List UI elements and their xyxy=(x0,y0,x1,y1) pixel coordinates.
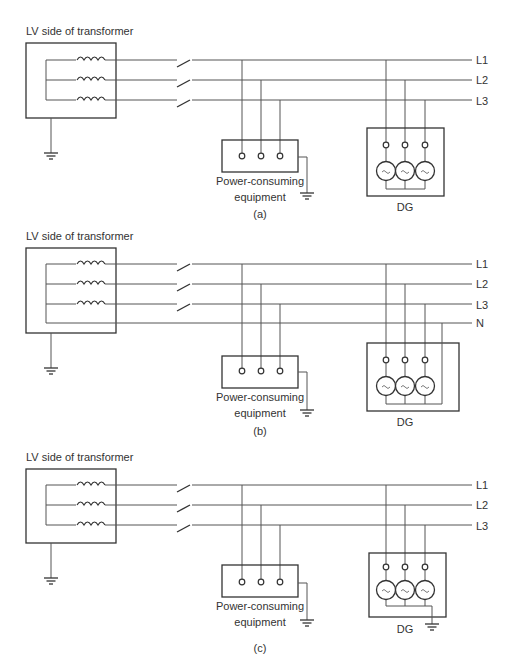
load-label-line1: Power-consuming xyxy=(216,391,304,403)
panel-b: LV side of transformer L1 L2 L3 N P xyxy=(26,230,488,437)
terminal-icon xyxy=(383,357,389,363)
panel-caption: (c) xyxy=(254,642,267,654)
switch-icon xyxy=(177,505,190,512)
terminal-icon xyxy=(258,579,264,585)
ac-generator-icon xyxy=(396,162,415,181)
line-label-l2: L2 xyxy=(476,74,488,86)
line-label-l1: L1 xyxy=(476,54,488,66)
grounding-systems-diagram: LV side of transformer L1 L2 L3 xyxy=(0,0,505,667)
transformer-label: LV side of transformer xyxy=(26,230,134,242)
transformer-label: LV side of transformer xyxy=(26,451,134,463)
terminal-icon xyxy=(277,579,283,585)
terminal-icon xyxy=(422,357,428,363)
panel-a: LV side of transformer L1 L2 L3 xyxy=(26,25,488,220)
switch-icon xyxy=(177,485,190,492)
ac-generator-icon xyxy=(377,162,396,181)
terminal-icon xyxy=(402,357,408,363)
terminal-icon xyxy=(277,153,283,159)
switch-icon xyxy=(177,264,190,271)
line-label-l3: L3 xyxy=(476,299,488,311)
transformer-winding-icon xyxy=(77,57,105,60)
ground-icon xyxy=(44,153,58,159)
switch-icon xyxy=(177,60,190,67)
terminal-icon xyxy=(383,564,389,570)
panel-c: LV side of transformer L1 L2 L3 Power-co… xyxy=(26,451,488,654)
transformer-winding-icon xyxy=(77,522,105,525)
terminal-icon xyxy=(422,142,428,148)
ground-icon xyxy=(300,193,314,199)
ac-generator-icon xyxy=(416,162,435,181)
ac-generator-icon xyxy=(416,581,435,600)
line-label-l2: L2 xyxy=(476,278,488,290)
transformer-winding-icon xyxy=(77,301,105,304)
transformer-winding-icon xyxy=(77,281,105,284)
terminal-icon xyxy=(239,368,245,374)
load-label-line2: equipment xyxy=(234,407,285,419)
switch-icon xyxy=(177,304,190,311)
terminal-icon xyxy=(258,153,264,159)
dg-label: DG xyxy=(397,416,414,428)
terminal-icon xyxy=(277,368,283,374)
line-label-l3: L3 xyxy=(476,520,488,532)
load-label-line2: equipment xyxy=(234,616,285,628)
transformer-winding-icon xyxy=(77,502,105,505)
switch-icon xyxy=(177,284,190,291)
terminal-icon xyxy=(258,368,264,374)
load-label-line2: equipment xyxy=(234,191,285,203)
ground-icon xyxy=(44,578,58,584)
transformer-winding-icon xyxy=(77,261,105,264)
panel-caption: (b) xyxy=(253,425,266,437)
switch-icon xyxy=(177,80,190,87)
line-label-l3: L3 xyxy=(476,95,488,107)
terminal-icon xyxy=(383,142,389,148)
terminal-icon xyxy=(402,564,408,570)
dg-label: DG xyxy=(397,623,414,635)
ground-icon xyxy=(425,624,439,630)
terminal-icon xyxy=(422,564,428,570)
transformer-box xyxy=(26,469,116,543)
transformer-winding-icon xyxy=(77,77,105,80)
line-label-l2: L2 xyxy=(476,499,488,511)
ac-generator-icon xyxy=(377,581,396,600)
ac-generator-icon xyxy=(396,377,415,396)
line-label-n: N xyxy=(476,317,484,329)
transformer-winding-icon xyxy=(77,482,105,485)
dg-label: DG xyxy=(397,201,414,213)
line-label-l1: L1 xyxy=(476,479,488,491)
load-label-line1: Power-consuming xyxy=(216,175,304,187)
terminal-icon xyxy=(239,153,245,159)
ac-generator-icon xyxy=(377,377,396,396)
ground-icon xyxy=(300,620,314,626)
ac-generator-icon xyxy=(396,581,415,600)
ground-icon xyxy=(44,368,58,374)
transformer-label: LV side of transformer xyxy=(26,25,134,37)
panel-caption: (a) xyxy=(253,208,266,220)
terminal-icon xyxy=(239,579,245,585)
switch-icon xyxy=(177,100,190,107)
switch-icon xyxy=(177,525,190,532)
transformer-winding-icon xyxy=(77,97,105,100)
dg-box xyxy=(367,343,459,411)
line-label-l1: L1 xyxy=(476,258,488,270)
load-label-line1: Power-consuming xyxy=(216,600,304,612)
ac-generator-icon xyxy=(416,377,435,396)
ground-icon xyxy=(300,410,314,416)
terminal-icon xyxy=(402,142,408,148)
